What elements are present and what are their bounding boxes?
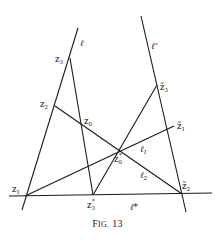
- label-line-l1: ℓ1: [140, 144, 147, 155]
- label-point-z3-tilde: z̃3: [160, 82, 168, 93]
- label-line-l-star: ℓ*: [130, 202, 139, 212]
- line-z3star-z3tilde: [93, 85, 157, 195]
- label-point-z0-star: z0*: [114, 152, 122, 165]
- label-line-l2: ℓ2: [140, 170, 148, 181]
- figure-caption: FIG. 13: [0, 218, 215, 229]
- label-point-z3: z3: [55, 54, 63, 65]
- label-point-z1: z1: [12, 184, 20, 195]
- label-point-z2-tilde: z̃2: [182, 181, 190, 192]
- label-line-l: ℓ: [80, 38, 84, 48]
- line-l-tilde: [141, 16, 186, 212]
- label-point-z2: z2: [40, 99, 48, 110]
- label-point-z1-tilde: z̃1: [177, 121, 185, 132]
- label-point-z3-star: z3*: [87, 198, 95, 211]
- label-line-l-tilde: ℓ̃: [151, 41, 159, 51]
- line-l2: [55, 106, 182, 194]
- label-point-z0: z0: [84, 116, 92, 127]
- line-l: [22, 28, 78, 210]
- geometry-diagram: ℓ ℓ̃ ℓ* ℓ1 ℓ2 z3 z2 z0 z1 z0* z3* z̃1 z̃…: [0, 0, 215, 242]
